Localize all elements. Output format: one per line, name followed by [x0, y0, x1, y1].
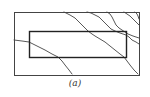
- curve-6: [135, 12, 139, 19]
- diagonal-curves: [14, 12, 139, 74]
- figure-caption: (a): [0, 78, 150, 88]
- inner-rectangle: [30, 32, 127, 58]
